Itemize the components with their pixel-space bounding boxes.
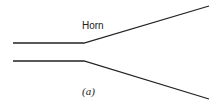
figure-caption: (a) [82, 85, 95, 98]
horn-diagram: Horn (a) [0, 0, 224, 108]
horn-label: Horn [82, 20, 104, 31]
horn-lower-wall [13, 61, 209, 99]
horn-upper-wall [13, 6, 209, 43]
